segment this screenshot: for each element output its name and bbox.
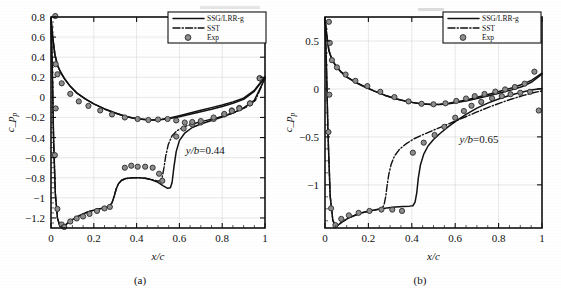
xtick-label: 0.6 bbox=[173, 232, 187, 244]
xtick-label: 0.4 bbox=[405, 232, 419, 244]
ytick-label: −0.2 bbox=[25, 111, 45, 123]
exp-marker bbox=[156, 171, 161, 176]
exp-marker bbox=[378, 89, 383, 94]
panel-a-caption: (a) bbox=[0, 274, 280, 286]
ytick-label: −0.5 bbox=[299, 131, 319, 143]
exp-marker bbox=[353, 78, 358, 83]
exp-marker bbox=[87, 211, 92, 216]
xtick-label: 0 bbox=[322, 232, 328, 244]
exp-marker bbox=[76, 99, 81, 104]
exp-marker bbox=[443, 101, 448, 106]
exp-marker bbox=[150, 165, 155, 170]
ytick-label: 0 bbox=[40, 91, 46, 103]
ytick-label: 0.6 bbox=[31, 31, 45, 43]
exp-marker bbox=[333, 223, 338, 228]
xtick-label: 0.8 bbox=[492, 232, 506, 244]
exp-marker bbox=[102, 206, 107, 211]
exp-marker bbox=[190, 119, 195, 124]
exp-marker bbox=[493, 89, 498, 94]
curve-ssg-lrr-g bbox=[51, 18, 265, 228]
exp-marker bbox=[479, 99, 484, 104]
y-axis-title-subscript: p bbox=[288, 112, 297, 117]
exp-marker bbox=[68, 91, 73, 96]
panel-a: 00.20.40.60.81−1.2−1−0.8−0.6−0.4−0.200.2… bbox=[0, 0, 280, 288]
exp-marker bbox=[379, 207, 384, 212]
legend-swatch-marker bbox=[460, 35, 466, 41]
exp-marker bbox=[392, 94, 397, 99]
exp-marker bbox=[365, 83, 370, 88]
exp-marker bbox=[463, 96, 468, 101]
ytick-label: 0.8 bbox=[31, 11, 45, 23]
ytick-label: −1 bbox=[307, 179, 319, 191]
exp-marker bbox=[160, 178, 165, 183]
exp-marker bbox=[346, 213, 351, 218]
exp-marker bbox=[326, 19, 331, 24]
exp-marker bbox=[410, 150, 415, 155]
tick-labels: 00.20.40.60.81−1.2−1−0.8−0.6−0.4−0.200.2… bbox=[25, 11, 268, 244]
curve-sst bbox=[325, 18, 542, 226]
exp-marker bbox=[356, 210, 361, 215]
y-axis-title: c_pp bbox=[282, 112, 297, 132]
exp-marker bbox=[68, 219, 73, 224]
curve-sst bbox=[51, 18, 265, 228]
exp-marker bbox=[431, 102, 436, 107]
exp-marker bbox=[499, 94, 504, 99]
exp-marker bbox=[328, 206, 333, 211]
axis-ticks bbox=[325, 17, 542, 228]
exp-marker bbox=[329, 58, 334, 63]
legend-label: SST bbox=[207, 24, 220, 33]
exp-marker bbox=[143, 164, 148, 169]
annotation-variable: y/b bbox=[459, 133, 474, 145]
exp-marker bbox=[421, 140, 426, 145]
figure-container: 00.20.40.60.81−1.2−1−0.8−0.6−0.4−0.200.2… bbox=[0, 0, 561, 288]
exp-marker bbox=[419, 101, 424, 106]
legend-label: SSG/LRR-g bbox=[482, 14, 519, 23]
exp-marker bbox=[399, 208, 404, 213]
exp-marker bbox=[432, 132, 437, 137]
exp-marker bbox=[62, 224, 67, 229]
exp-marker bbox=[367, 208, 372, 213]
xtick-label: 0.6 bbox=[448, 232, 462, 244]
exp-marker bbox=[326, 129, 331, 134]
annotation-value: =0.44 bbox=[199, 144, 225, 156]
ytick-label: 0 bbox=[314, 83, 320, 95]
exp-marker bbox=[339, 216, 344, 221]
legend: SSG/LRR-gSSTExp bbox=[443, 12, 541, 43]
exp-marker bbox=[442, 124, 447, 129]
xtick-label: 1 bbox=[262, 232, 268, 244]
exp-marker bbox=[122, 115, 127, 120]
exp-marker bbox=[198, 118, 203, 123]
exp-marker bbox=[406, 99, 411, 104]
exp-marker bbox=[55, 72, 60, 77]
legend-swatch-marker bbox=[185, 35, 191, 41]
exp-marker bbox=[522, 81, 527, 86]
exp-marker bbox=[222, 111, 227, 116]
exp-marker bbox=[107, 204, 112, 209]
exp-marker bbox=[94, 208, 99, 213]
ytick-label: −0.8 bbox=[25, 172, 45, 184]
chart-b: 00.20.40.60.81−1−0.500.5x/cc_ppy/b=0.65S… bbox=[280, 0, 561, 288]
ytick-label: −1 bbox=[33, 192, 45, 204]
exp-marker bbox=[53, 13, 58, 18]
ytick-label: 0.4 bbox=[31, 51, 45, 63]
panel-b-caption: (b) bbox=[280, 274, 560, 286]
exp-marker bbox=[74, 216, 79, 221]
ytick-label: 0.5 bbox=[305, 35, 319, 47]
scan-artifact-top-right bbox=[418, 8, 444, 11]
exp-marker bbox=[390, 207, 395, 212]
panel-annotation: y/b=0.44 bbox=[185, 144, 225, 156]
y-axis-title-text: c_pp bbox=[4, 112, 19, 132]
legend: SSG/LRR-gSSTExp bbox=[168, 12, 266, 43]
exp-marker bbox=[518, 90, 523, 95]
xtick-label: 0 bbox=[48, 232, 54, 244]
exp-marker bbox=[86, 103, 91, 108]
exp-marker bbox=[181, 126, 186, 131]
scan-artifact-top-left bbox=[200, 6, 260, 9]
exp-marker bbox=[469, 103, 474, 108]
exp-marker bbox=[211, 115, 216, 120]
panel-annotation: y/b=0.65 bbox=[459, 133, 499, 145]
exp-marker bbox=[135, 164, 140, 169]
exp-marker bbox=[53, 106, 58, 111]
exp-marker bbox=[165, 116, 170, 121]
legend-label: SST bbox=[482, 24, 495, 33]
